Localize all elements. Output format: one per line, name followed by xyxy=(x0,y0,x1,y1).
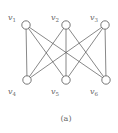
label-v4: v4 xyxy=(8,87,17,97)
label-v2: v2 xyxy=(51,13,59,23)
node-v1 xyxy=(22,21,30,29)
label-v1: v1 xyxy=(8,13,16,23)
node-v6 xyxy=(102,76,110,84)
node-v4 xyxy=(23,76,31,84)
graph-canvas: v1v2v3v4v5v6 (a) xyxy=(0,0,118,133)
edges-group xyxy=(26,25,106,80)
edge-v1-v4 xyxy=(26,25,27,80)
label-v5: v5 xyxy=(51,87,60,97)
edge-v3-v6 xyxy=(105,25,106,80)
node-v5 xyxy=(62,76,70,84)
figure-caption: (a) xyxy=(60,114,71,123)
node-v2 xyxy=(62,21,70,29)
label-v6: v6 xyxy=(90,87,99,97)
label-v3: v3 xyxy=(90,13,99,23)
node-v3 xyxy=(101,21,109,29)
